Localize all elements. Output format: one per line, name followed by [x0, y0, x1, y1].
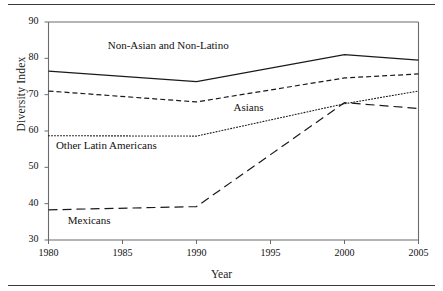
series-line-non-asian-and-non-latino	[49, 55, 419, 82]
y-tick-label: 90	[17, 15, 39, 26]
series-line-asians	[49, 74, 419, 102]
y-axis-label: Diversity Index	[15, 57, 27, 132]
y-tick-label: 30	[17, 233, 39, 244]
chart-figure: 30405060708090198019851990199520002005 N…	[0, 0, 443, 291]
y-tick-label: 40	[17, 197, 39, 208]
x-tick-label: 2005	[399, 247, 439, 258]
x-tick-label: 1990	[177, 247, 217, 258]
series-label-non-asian-and-non-latino: Non-Asian and Non-Latino	[108, 39, 229, 51]
axes	[49, 22, 419, 240]
x-tick-label: 1980	[29, 247, 69, 258]
x-tick-label: 2000	[325, 247, 365, 258]
series-line-mexicans	[49, 103, 419, 210]
y-axis-label-wrapper: Diversity Index	[11, 34, 29, 154]
series-line-other-latin-americans	[49, 91, 419, 136]
x-axis-label: Year	[0, 268, 443, 280]
series-label-asians: Asians	[234, 101, 264, 113]
data-series	[49, 55, 419, 210]
y-tick-label: 50	[17, 160, 39, 171]
axis-ticks	[45, 22, 419, 244]
x-tick-label: 1985	[103, 247, 143, 258]
series-label-mexicans: Mexicans	[68, 214, 111, 226]
series-label-other-latin-americans: Other Latin Americans	[56, 139, 157, 151]
x-tick-label: 1995	[251, 247, 291, 258]
